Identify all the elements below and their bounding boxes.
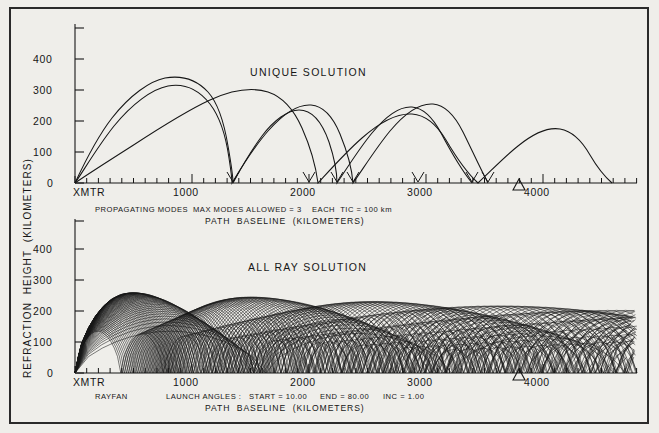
bottom-xtick-2000: 2000: [290, 376, 316, 388]
bottom-caption-launch-angles: LAUNCH ANGLES :: [166, 392, 241, 401]
bottom-panel-title: ALL RAY SOLUTION: [248, 261, 367, 273]
top-caption-tic: EACH TIC = 100 km: [312, 205, 392, 214]
top-xtick-1000: 1000: [173, 186, 199, 198]
bottom-caption-rayfan: RAYFAN: [95, 392, 128, 401]
unique-solution-plot: [0, 0, 659, 215]
top-caption-propagating-modes: PROPAGATING MODES: [95, 205, 188, 214]
all-ray-solution-plot: [0, 218, 659, 398]
bottom-xtick-1000: 1000: [173, 376, 199, 388]
bottom-ytick-400: 400: [33, 243, 52, 255]
bottom-ray-fan: [75, 293, 637, 373]
bottom-xtick-xmtr: XMTR: [73, 376, 105, 388]
top-ytick-200: 200: [33, 115, 52, 127]
bottom-caption-inc: INC = 1.00: [383, 392, 425, 401]
top-ytick-300: 300: [33, 84, 52, 96]
top-caption-max-modes: MAX MODES ALLOWED = 3: [193, 205, 302, 214]
ray-mode-3hop: [75, 77, 472, 183]
bottom-caption-axis-title: PATH BASELINE (KILOMETERS): [205, 403, 365, 413]
bottom-ytick-300: 300: [33, 274, 52, 286]
top-xtick-2000: 2000: [290, 186, 316, 198]
top-ytick-400: 400: [33, 53, 52, 65]
top-panel-title: UNIQUE SOLUTION: [250, 66, 367, 78]
top-xtick-4000: 4000: [524, 186, 550, 198]
bottom-xtick-3000: 3000: [407, 376, 433, 388]
top-panel: 0 100 200 300 400 XMTR 1000 2000 3000 40…: [0, 0, 659, 215]
top-ytick-0: 0: [47, 177, 53, 189]
top-ytick-100: 100: [33, 146, 52, 158]
bottom-panel: 0 100 200 300 400 XMTR 1000 2000 3000 40…: [0, 218, 659, 398]
ray-trace-figure: REFRACTION HEIGHT (KILOMETERS): [0, 0, 659, 433]
top-xtick-xmtr: XMTR: [73, 186, 105, 198]
bottom-xtick-4000: 4000: [524, 376, 550, 388]
bottom-caption-start: START = 10.00: [249, 392, 307, 401]
top-ground-reflection-markers: [227, 172, 494, 182]
bottom-ytick-200: 200: [33, 305, 52, 317]
bottom-ytick-0: 0: [47, 367, 53, 379]
bottom-caption-end: END = 80.00: [320, 392, 369, 401]
ray-mode-5hop: [75, 90, 612, 183]
top-xtick-3000: 3000: [407, 186, 433, 198]
bottom-ytick-100: 100: [33, 336, 52, 348]
top-ray-paths: [75, 77, 612, 183]
